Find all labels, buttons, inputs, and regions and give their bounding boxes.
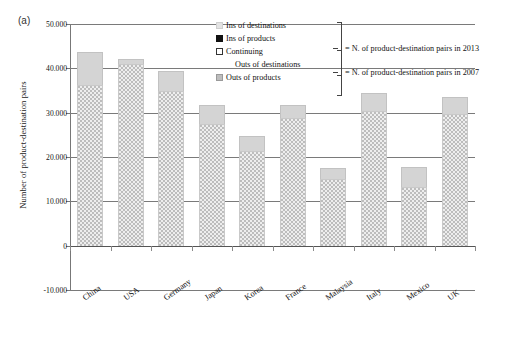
bar-segment-2007 (280, 118, 306, 246)
annotation-2007: = N. of product-destination pairs in 200… (345, 68, 479, 77)
bar-segment-2007 (158, 91, 184, 245)
bar-malaysia[interactable] (320, 168, 346, 246)
legend-item-label: Outs of products (226, 71, 281, 84)
legend-swatch-icon (216, 74, 223, 81)
bracket-2007 (337, 50, 342, 96)
bar-segment-ins (442, 97, 468, 114)
bar-france[interactable] (280, 105, 306, 246)
bar-mexico[interactable] (401, 167, 427, 246)
bar-segment-2007 (320, 179, 346, 246)
bracket-2013-tick (333, 48, 338, 49)
bar-segment-2007 (239, 151, 265, 245)
legend-swatch-icon (227, 62, 232, 67)
x-tickmark (232, 246, 233, 251)
legend-swatch-icon (216, 48, 223, 55)
chart-legend: Ins of destinationsIns of productsContin… (216, 19, 301, 84)
legend-item-label: Ins of destinations (226, 19, 286, 32)
bar-korea[interactable] (239, 136, 265, 246)
bar-usa[interactable] (118, 59, 144, 246)
legend-swatch-icon (216, 35, 223, 42)
bar-segment-2007 (401, 187, 427, 246)
x-tickmark (273, 246, 274, 251)
bar-segment-2007 (77, 85, 103, 245)
y-tick-label: 0 (63, 241, 67, 250)
bar-segment-ins (158, 71, 184, 91)
annotation-2013: = N. of product-destination pairs in 201… (345, 44, 479, 53)
bar-germany[interactable] (158, 71, 184, 245)
panel-label: (a) (18, 15, 30, 26)
bar-segment-ins (320, 168, 346, 179)
legend-swatch-icon (216, 22, 223, 29)
y-tick-label: 30.000 (46, 108, 67, 117)
legend-item[interactable]: Outs of products (216, 71, 301, 84)
bar-segment-ins (77, 52, 103, 86)
legend-item-label: Continuing (226, 45, 263, 58)
y-tick-label: 20.000 (46, 153, 67, 162)
bar-segment-2007 (442, 114, 468, 246)
bar-uk[interactable] (442, 97, 468, 246)
legend-item[interactable]: Ins of products (216, 32, 301, 45)
x-tickmark (111, 246, 112, 251)
bar-segment-2007 (199, 124, 225, 245)
x-tickmark (313, 246, 314, 251)
legend-item[interactable]: Continuing (216, 45, 301, 58)
x-tickmark (151, 246, 152, 251)
x-tickmark (394, 246, 395, 251)
x-tickmark (354, 246, 355, 251)
bar-segment-ins (401, 167, 427, 187)
legend-item-label: Ins of products (226, 32, 275, 45)
legend-item-label: Outs of destinations (235, 58, 301, 71)
x-tickmark (475, 246, 476, 251)
bar-segment-ins (199, 105, 225, 124)
y-tick-label: 50.000 (46, 20, 67, 29)
bar-segment-ins (118, 59, 144, 65)
y-tick-label: 40.000 (46, 64, 67, 73)
bar-segment-2007 (361, 111, 387, 245)
y-axis-title: Number of product-destination pairs (18, 45, 28, 245)
bar-segment-ins (361, 93, 387, 111)
bar-italy[interactable] (361, 93, 387, 246)
bar-segment-2007 (118, 64, 144, 245)
x-tickmark (70, 246, 71, 251)
legend-item[interactable]: Outs of destinations (216, 58, 301, 71)
bracket-2007-tick (333, 72, 338, 73)
bar-segment-ins (239, 136, 265, 151)
x-tickmark (435, 246, 436, 251)
y-tick-label: -10.000 (44, 286, 67, 295)
bar-segment-ins (280, 105, 306, 118)
y-tick-label: 10.000 (46, 197, 67, 206)
bar-china[interactable] (77, 52, 103, 246)
bar-japan[interactable] (199, 105, 225, 246)
figure-panel-a: (a) Number of product-destination pairs … (0, 0, 505, 347)
legend-item[interactable]: Ins of destinations (216, 19, 301, 32)
x-tickmark (192, 246, 193, 251)
